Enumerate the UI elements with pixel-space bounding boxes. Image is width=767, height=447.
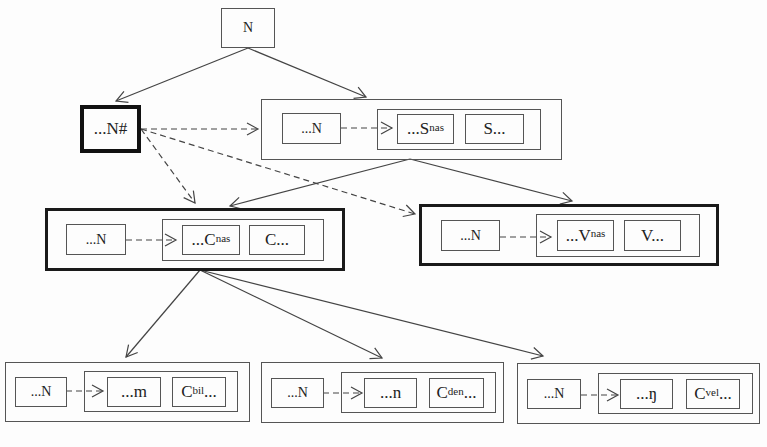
word-final-label: ...N# bbox=[94, 119, 128, 139]
edge-root-to-sonorant bbox=[248, 48, 366, 97]
root-node: N bbox=[221, 8, 275, 48]
consonant-mid: ...Cnas bbox=[182, 225, 240, 255]
edge-consonant-to-dental bbox=[200, 270, 382, 358]
bilabial-mid: ...m bbox=[107, 377, 161, 407]
velar-mid: ...ŋ bbox=[620, 379, 673, 409]
consonant-left: ...N bbox=[66, 224, 126, 255]
sonorant-left: ...N bbox=[282, 113, 341, 144]
dash-wordfinal-to-consonant bbox=[141, 129, 195, 203]
edge-sonorant-to-vowel bbox=[410, 159, 572, 201]
dental-mid: ...n bbox=[364, 378, 417, 408]
edge-consonant-to-bilabial bbox=[126, 270, 200, 357]
vowel-right: V... bbox=[624, 220, 681, 251]
edge-consonant-to-velar bbox=[200, 270, 543, 356]
velar-right: Cvel... bbox=[686, 379, 740, 409]
root-label: N bbox=[243, 20, 253, 36]
sonorant-mid: ...Snas bbox=[397, 114, 454, 144]
dental-right: Cden... bbox=[429, 378, 484, 408]
word-final-node: ...N# bbox=[80, 105, 141, 153]
bilabial-right: Cbil... bbox=[172, 377, 226, 407]
velar-left: ...N bbox=[527, 379, 581, 409]
edge-sonorant-to-consonant bbox=[230, 159, 410, 206]
vowel-mid: ...Vnas bbox=[557, 220, 614, 251]
bilabial-left: ...N bbox=[15, 377, 67, 407]
edge-root-to-wordfinal bbox=[116, 48, 248, 101]
sonorant-right: S... bbox=[465, 114, 524, 144]
dental-left: ...N bbox=[271, 378, 324, 408]
vowel-left: ...N bbox=[441, 220, 500, 251]
consonant-right: C... bbox=[249, 225, 305, 255]
